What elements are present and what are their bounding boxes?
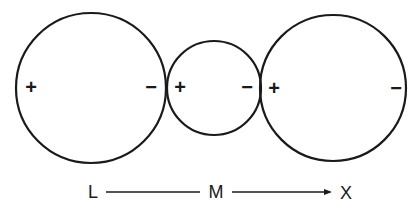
middle-circle-minus-sign: − (241, 77, 253, 97)
diagram-canvas (0, 0, 416, 209)
left-circle-minus-sign: − (145, 77, 157, 97)
left-circle-plus-sign: + (25, 77, 37, 97)
arrow-right-icon (324, 189, 332, 195)
right-circle-plus-sign: + (268, 78, 280, 98)
right-circle (260, 15, 406, 161)
left-circle (16, 13, 166, 163)
middle-circle-plus-sign: + (174, 77, 186, 97)
right-circle-minus-sign: − (390, 78, 402, 98)
axis-label-l: L (88, 183, 98, 201)
axis-label-x: X (340, 184, 352, 202)
axis-label-m: M (209, 183, 224, 201)
